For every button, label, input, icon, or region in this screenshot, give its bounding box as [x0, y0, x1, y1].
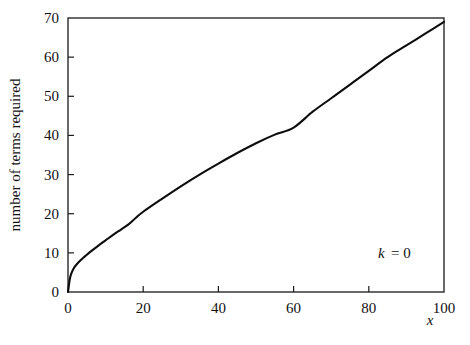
y-axis-title: number of terms required — [7, 78, 23, 231]
annotation-symbol: k — [378, 245, 385, 261]
y-tick-label: 70 — [44, 10, 59, 26]
chart-background — [0, 0, 470, 345]
annotation-k-equals-0: k = 0 — [378, 245, 411, 261]
x-tick-label: 20 — [136, 300, 151, 316]
y-tick-label: 20 — [44, 206, 59, 222]
x-axis-title: x — [426, 312, 434, 328]
y-tick-label: 0 — [52, 284, 60, 300]
y-tick-label: 40 — [44, 127, 59, 143]
y-tick-label: 60 — [44, 49, 59, 65]
line-chart: 020406080100 010203040506070 x number of… — [0, 0, 470, 345]
annotation-value: = 0 — [391, 245, 411, 261]
x-tick-label: 60 — [286, 300, 301, 316]
x-tick-label: 100 — [433, 300, 456, 316]
x-tick-label: 40 — [211, 300, 226, 316]
figure-container: 020406080100 010203040506070 x number of… — [0, 0, 470, 345]
caption-sliver — [64, 337, 324, 343]
y-tick-label: 10 — [44, 245, 59, 261]
y-tick-label: 30 — [44, 167, 59, 183]
y-tick-label: 50 — [44, 88, 59, 104]
x-tick-label: 0 — [64, 300, 72, 316]
x-tick-label: 80 — [361, 300, 376, 316]
